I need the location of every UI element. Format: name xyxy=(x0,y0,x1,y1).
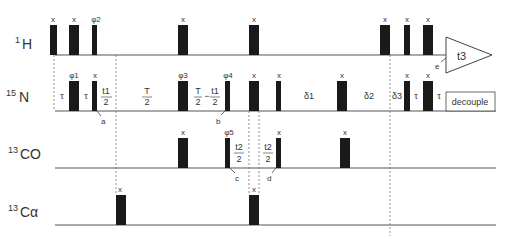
svg-text:x: x xyxy=(405,15,409,24)
phase-labels-15n: φ1 x φ3 φ4 x x x x x xyxy=(69,71,430,80)
svg-text:t2: t2 xyxy=(264,142,272,152)
svg-text:T: T xyxy=(195,86,201,96)
channel-label-13ca: 13 Cα xyxy=(8,203,38,220)
svg-text:τ: τ xyxy=(414,91,418,101)
svg-text:b: b xyxy=(216,117,221,126)
svg-text:φ1: φ1 xyxy=(69,71,79,80)
svg-text:x: x xyxy=(181,128,185,137)
channel-label-1h: 1 H xyxy=(15,35,32,52)
pulses-13ca xyxy=(116,195,259,225)
svg-text:τ: τ xyxy=(84,91,88,101)
svg-text:T: T xyxy=(144,86,150,96)
svg-text:δ1: δ1 xyxy=(304,91,314,101)
svg-text:x: x xyxy=(340,71,344,80)
svg-text:c: c xyxy=(235,174,239,183)
pulse-sequence-diagram: 1 H 15 N 13 CO 13 Cα x x φ2 x xyxy=(0,0,505,239)
svg-text:x: x xyxy=(252,71,256,80)
channel-label-15n: 15 N xyxy=(6,88,29,105)
decouple-box: decouple xyxy=(446,92,495,111)
phase-labels-13co: x φ5 x x xyxy=(181,128,347,137)
svg-text:Cα: Cα xyxy=(20,204,38,220)
svg-text:2: 2 xyxy=(212,97,217,107)
svg-text:x: x xyxy=(426,71,430,80)
svg-text:x: x xyxy=(252,15,256,24)
svg-text:decouple: decouple xyxy=(452,97,489,107)
svg-text:x: x xyxy=(118,185,122,194)
channel-label-13co: 13 CO xyxy=(8,145,41,162)
svg-text:2: 2 xyxy=(144,97,149,107)
svg-text:1: 1 xyxy=(15,35,20,45)
svg-text:φ5: φ5 xyxy=(224,128,234,137)
svg-text:φ4: φ4 xyxy=(223,71,233,80)
svg-text:2: 2 xyxy=(236,154,241,164)
svg-text:φ3: φ3 xyxy=(178,71,188,80)
svg-text:CO: CO xyxy=(20,146,41,162)
svg-text:x: x xyxy=(405,71,409,80)
svg-text:13: 13 xyxy=(8,145,18,155)
svg-text:x: x xyxy=(93,71,97,80)
markers-13co: c d xyxy=(230,168,276,183)
svg-text:2: 2 xyxy=(103,97,108,107)
phase-labels-1h: x x φ2 x x x x x xyxy=(51,15,430,24)
svg-text:2: 2 xyxy=(265,154,270,164)
svg-text:t1: t1 xyxy=(102,86,110,96)
svg-text:x: x xyxy=(252,185,256,194)
svg-text:2: 2 xyxy=(195,97,200,107)
svg-text:e: e xyxy=(435,62,440,71)
svg-text:x: x xyxy=(383,15,387,24)
delays-13co: t2 2 t2 2 xyxy=(234,142,273,164)
svg-text:τ: τ xyxy=(60,91,64,101)
svg-text:a: a xyxy=(101,117,106,126)
pulses-1h xyxy=(50,25,433,55)
svg-text:H: H xyxy=(22,36,32,52)
svg-text:t2: t2 xyxy=(235,142,243,152)
svg-text:d: d xyxy=(267,174,271,183)
svg-text:φ2: φ2 xyxy=(91,15,101,24)
svg-text:15: 15 xyxy=(6,88,16,98)
svg-text:x: x xyxy=(51,15,55,24)
pulses-15n xyxy=(69,81,433,111)
svg-text:t3: t3 xyxy=(457,50,466,62)
svg-text:x: x xyxy=(277,128,281,137)
svg-text:δ3: δ3 xyxy=(392,91,402,101)
svg-text:13: 13 xyxy=(8,203,18,213)
svg-text:x: x xyxy=(343,128,347,137)
svg-text:x: x xyxy=(277,71,281,80)
svg-text:x: x xyxy=(426,15,430,24)
svg-text:x: x xyxy=(181,15,185,24)
svg-text:t1: t1 xyxy=(211,86,219,96)
phase-labels-13ca: x x xyxy=(118,185,256,194)
svg-text:x: x xyxy=(72,15,76,24)
svg-text:N: N xyxy=(19,89,29,105)
svg-text:τ: τ xyxy=(437,91,441,101)
svg-text:δ2: δ2 xyxy=(364,91,374,101)
svg-text:−: − xyxy=(204,91,209,101)
